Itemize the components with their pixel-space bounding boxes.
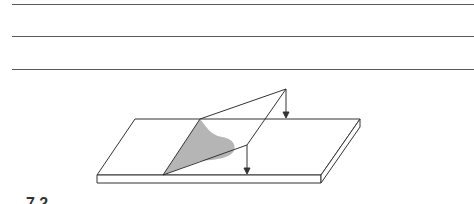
figure-caption: 7.2 — [26, 196, 48, 204]
peel-test-diagram — [0, 0, 474, 204]
force-arrow-top-head — [283, 112, 289, 118]
plate-front-edge — [97, 175, 321, 183]
